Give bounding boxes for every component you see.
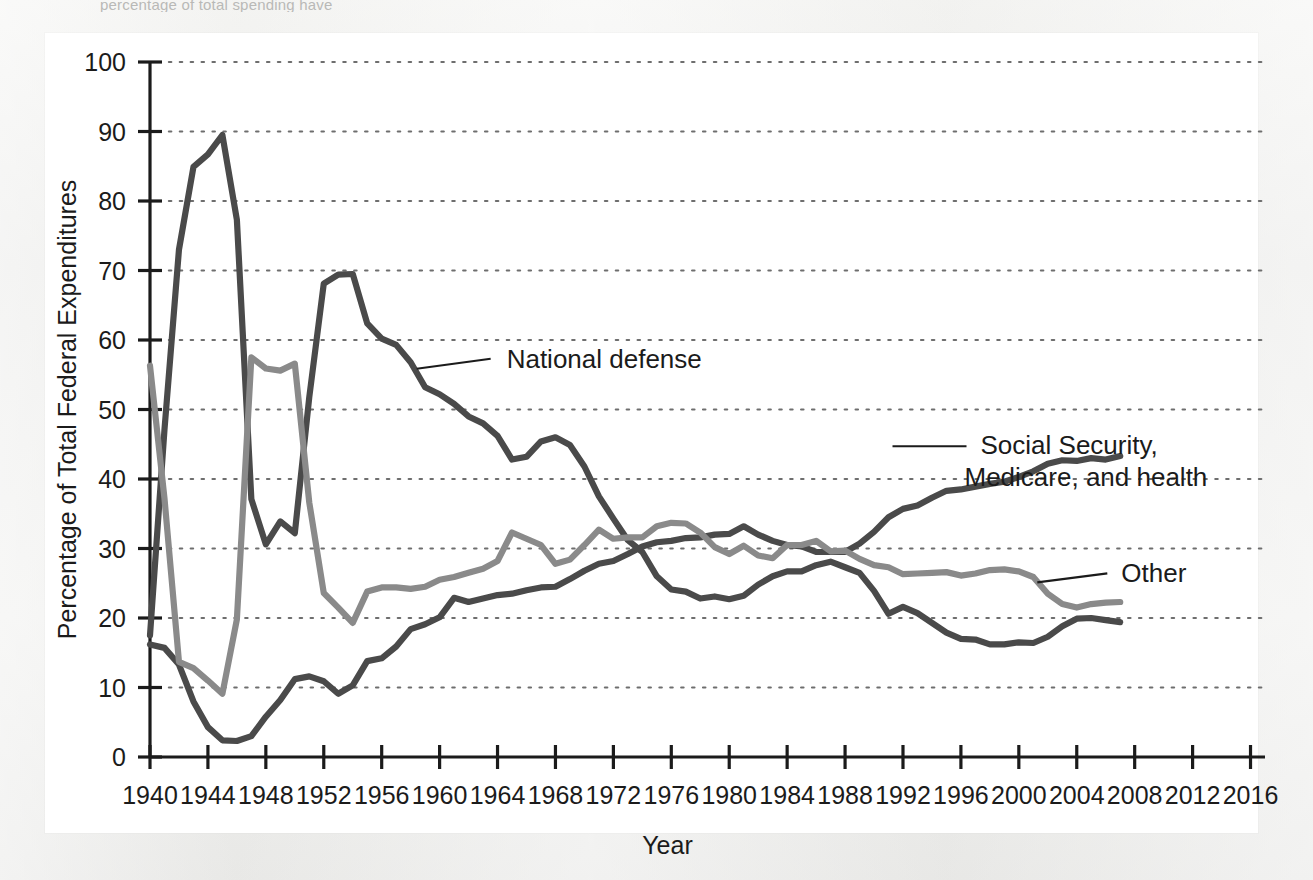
x-tick-label: 1972: [586, 781, 642, 809]
x-tick-label: 1940: [122, 781, 178, 809]
y-tick-label: 70: [98, 257, 126, 285]
y-tick-label: 60: [98, 326, 126, 354]
annotation-other: Other: [1121, 558, 1186, 588]
x-tick-label: 1944: [180, 781, 236, 809]
x-tick-label: 1952: [296, 781, 352, 809]
line-chart: 0102030405060708090100194019441948195219…: [0, 0, 1313, 880]
y-tick-label: 10: [98, 674, 126, 702]
x-tick-label: 2004: [1049, 781, 1105, 809]
y-tick-label: 90: [98, 118, 126, 146]
x-tick-label: 1992: [875, 781, 931, 809]
x-tick-label: 1960: [412, 781, 468, 809]
x-tick-label: 1980: [701, 781, 757, 809]
x-tick-label: 2016: [1223, 781, 1279, 809]
y-tick-label: 50: [98, 396, 126, 424]
y-tick-label: 30: [98, 535, 126, 563]
x-tick-label: 1968: [528, 781, 584, 809]
x-tick-label: 1964: [470, 781, 526, 809]
y-tick-label: 0: [112, 743, 126, 771]
x-tick-label: 1984: [759, 781, 815, 809]
screenshot-page: percentage of total spending have 010203…: [0, 0, 1313, 880]
x-tick-label: 2008: [1107, 781, 1163, 809]
tick-label-layer: 0102030405060708090100194019441948195219…: [84, 48, 1278, 809]
series-layer: [150, 135, 1120, 741]
y-tick-label: 80: [98, 187, 126, 215]
y-tick-label: 20: [98, 604, 126, 632]
x-tick-label: 1948: [238, 781, 294, 809]
x-tick-label: 2012: [1165, 781, 1221, 809]
x-tick-label: 1988: [817, 781, 873, 809]
y-tick-label: 40: [98, 465, 126, 493]
x-tick-label: 1956: [354, 781, 410, 809]
y-tick-label: 100: [84, 48, 126, 76]
y-axis-title: Percentage of Total Federal Expenditures: [53, 180, 81, 640]
annotation-leader-line: [417, 359, 491, 369]
x-axis-title: Year: [642, 831, 693, 859]
x-tick-label: 1996: [933, 781, 989, 809]
x-tick-label: 2000: [991, 781, 1047, 809]
x-tick-label: 1976: [643, 781, 699, 809]
annotation-leader-line: [1037, 573, 1107, 582]
annotation-national-defense: National defense: [507, 344, 702, 374]
